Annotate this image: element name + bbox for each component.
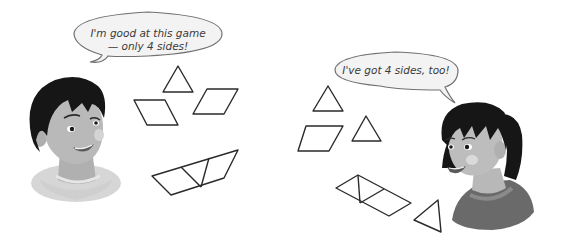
left-shape-group xyxy=(134,66,238,195)
speech-line: — only 4 sides! xyxy=(78,40,218,53)
compound-parallelogram-shape xyxy=(336,175,411,216)
speech-line: I'm good at this game xyxy=(78,27,218,40)
speech-text-girl: I've got 4 sides, too! xyxy=(335,64,457,77)
compound-trapezoid-shape xyxy=(152,150,238,195)
boy-character xyxy=(30,77,121,202)
speech-text-boy: I'm good at this game — only 4 sides! xyxy=(78,27,218,53)
right-shape-group xyxy=(298,86,441,232)
rhombus-shape xyxy=(193,89,238,114)
rhombus-shape xyxy=(298,126,343,151)
speech-line: I've got 4 sides, too! xyxy=(335,64,457,77)
girl-character xyxy=(441,102,534,230)
speech-bubble-girl xyxy=(335,52,458,103)
rhombus-shape xyxy=(134,100,178,125)
triangle-shape xyxy=(313,86,343,111)
triangle-shape xyxy=(163,66,193,92)
triangle-shape xyxy=(414,200,441,232)
triangle-shape xyxy=(352,116,381,141)
